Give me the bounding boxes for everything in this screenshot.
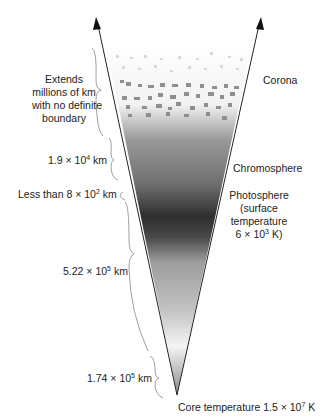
corona-extent-line: millions of km — [32, 86, 96, 99]
value-unit: km — [111, 265, 128, 277]
value-base: 1.9 × 10 — [48, 154, 86, 166]
value-unit: km — [90, 154, 107, 166]
corona-extent-line: boundary — [32, 112, 96, 125]
convective-zone-thickness-label: 5.22 × 105 km — [63, 265, 128, 278]
core-temperature-label: Core temperature 1.5 × 107 K — [178, 401, 315, 414]
value-base: Less than 8 × 10 — [18, 188, 96, 200]
value-base: 6 × 10 — [236, 228, 266, 240]
photosphere-name: Photosphere — [228, 189, 290, 202]
value-unit: K) — [269, 228, 282, 240]
core-radius-label: 1.74 × 105 km — [87, 372, 152, 385]
value-base: 1.74 × 10 — [87, 372, 131, 384]
chromosphere-label: Chromosphere — [233, 162, 302, 175]
corona-extent-line: with no definite — [32, 99, 96, 112]
value-unit: km — [100, 188, 117, 200]
photosphere-detail: (surface — [228, 202, 290, 215]
value-base: Core temperature 1.5 × 10 — [178, 401, 301, 413]
photosphere-label: Photosphere (surface temperature 6 × 103… — [228, 189, 290, 241]
value-base: 5.22 × 10 — [63, 265, 107, 277]
value-unit: K — [305, 401, 315, 413]
value-unit: km — [135, 372, 152, 384]
photosphere-detail: temperature — [228, 215, 290, 228]
photosphere-temperature: 6 × 103 K) — [228, 228, 290, 241]
arrowhead-right-icon — [256, 17, 264, 30]
photosphere-thickness-label: Less than 8 × 102 km — [18, 188, 117, 201]
arrowhead-left-icon — [93, 17, 101, 30]
corona-extent-label: Extends millions of km with no definite … — [32, 73, 96, 125]
corona-extent-line: Extends — [32, 73, 96, 86]
corona-label: Corona — [263, 74, 297, 87]
chromosphere-thickness-label: 1.9 × 104 km — [48, 154, 107, 167]
